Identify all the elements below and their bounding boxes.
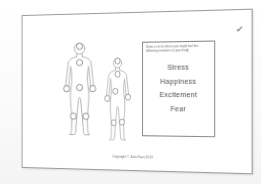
body-marker-circle: [77, 84, 83, 90]
body-marker-circle: [77, 59, 83, 65]
body-marker-circle: [90, 85, 96, 91]
emotion-word-fear: Fear: [146, 102, 211, 116]
body-marker-circle: [119, 119, 124, 125]
emotion-word-excitement: Excitement: [146, 88, 211, 102]
body-marker-circle: [70, 113, 76, 119]
body-outline-small: [101, 57, 134, 144]
body-marker-circle: [77, 43, 83, 49]
body-marker-circle: [111, 120, 116, 126]
checkmark-icon: ✓: [235, 24, 245, 34]
body-marker-circle: [115, 71, 120, 77]
body-marker-circle: [83, 113, 89, 119]
body-outline-large: [59, 42, 100, 140]
copyright-text: Copyright © Julia Ross 2013: [23, 153, 252, 162]
body-marker-circle: [105, 95, 110, 101]
emotion-word-stress: Stress: [146, 61, 211, 75]
instruction-text: Draw a circle where you might feel the f…: [146, 44, 211, 53]
emotion-word-bank: Draw a circle where you might feel the f…: [142, 41, 215, 138]
body-marker-circle: [113, 88, 118, 94]
emotion-word-list: Stress Happiness Excitement Fear: [146, 61, 211, 116]
body-marker-circle: [64, 86, 70, 92]
emotion-word-happiness: Happiness: [146, 74, 211, 88]
photo-background: ✓ Draw a circle where you might feel the…: [0, 0, 261, 184]
body-marker-circle: [115, 58, 120, 64]
body-marker-circle: [125, 94, 130, 100]
worksheet-page: ✓ Draw a circle where you might feel the…: [22, 9, 253, 175]
